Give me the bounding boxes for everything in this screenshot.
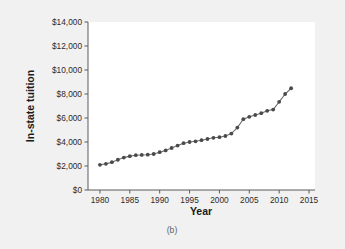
data-point-marker: [104, 162, 108, 166]
x-tick-label: 2015: [300, 195, 319, 205]
data-point-marker: [98, 163, 102, 167]
data-point-marker: [212, 136, 216, 140]
y-tick-label: $14,000: [52, 17, 82, 27]
y-tick-label: $6,000: [57, 113, 83, 123]
y-axis-title: In-state tuition: [24, 70, 36, 142]
x-tick-label: 2005: [240, 195, 259, 205]
data-point-marker: [182, 141, 186, 145]
data-point-marker: [259, 111, 263, 115]
data-point-marker: [164, 149, 168, 153]
data-point-marker: [229, 132, 233, 136]
x-tick-label: 2000: [210, 195, 229, 205]
data-point-marker: [235, 126, 239, 130]
x-axis-title: Year: [190, 205, 212, 217]
data-point-marker: [146, 153, 150, 157]
figure-panel-b: $0$2,000$4,000$6,000$8,000$10,000$12,000…: [0, 0, 345, 249]
data-point-marker: [134, 153, 138, 157]
data-point-marker: [277, 100, 281, 104]
data-point-marker: [206, 137, 210, 141]
data-point-marker: [289, 86, 293, 90]
data-point-marker: [176, 144, 180, 148]
data-point-marker: [122, 156, 126, 160]
y-tick-label: $0: [73, 185, 83, 195]
y-tick-label: $12,000: [52, 41, 82, 51]
plot-area-background: [88, 22, 315, 190]
data-point-marker: [194, 139, 198, 143]
data-point-marker: [223, 134, 227, 138]
data-point-marker: [247, 115, 251, 119]
data-point-marker: [283, 92, 287, 96]
tuition-line-chart: $0$2,000$4,000$6,000$8,000$10,000$12,000…: [0, 0, 345, 249]
data-point-marker: [128, 154, 132, 158]
panel-caption: (b): [167, 225, 178, 235]
y-tick-label: $2,000: [57, 161, 83, 171]
data-point-marker: [271, 108, 275, 112]
data-point-marker: [218, 135, 222, 139]
data-point-marker: [116, 158, 120, 162]
y-tick-label: $8,000: [57, 89, 83, 99]
x-tick-label: 2010: [270, 195, 289, 205]
x-tick-label: 1990: [150, 195, 169, 205]
data-point-marker: [152, 152, 156, 156]
data-point-marker: [110, 160, 114, 164]
data-point-marker: [241, 117, 245, 121]
data-point-marker: [253, 113, 257, 117]
x-tick-label: 1980: [91, 195, 110, 205]
y-tick-label: $4,000: [57, 137, 83, 147]
x-tick-label: 1995: [180, 195, 199, 205]
data-point-marker: [158, 150, 162, 154]
data-point-marker: [200, 138, 204, 142]
data-point-marker: [265, 109, 269, 113]
x-tick-label: 1985: [121, 195, 140, 205]
data-point-marker: [188, 140, 192, 144]
data-point-marker: [140, 153, 144, 157]
data-point-marker: [170, 146, 174, 150]
y-tick-label: $10,000: [52, 65, 82, 75]
